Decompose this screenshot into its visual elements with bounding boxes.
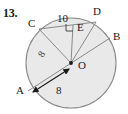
- point-label-A: A: [16, 84, 24, 96]
- point-label-C: C: [28, 17, 35, 29]
- circle-geometry-figure: A B C D E O 10 8 8: [0, 0, 128, 114]
- point-label-E: E: [77, 21, 84, 33]
- point-label-B: B: [113, 30, 120, 42]
- measure-label-radius-8: 8: [56, 84, 62, 96]
- figure-page: 13. A B C D E: [0, 0, 128, 114]
- center-dot-icon: [69, 61, 73, 65]
- point-label-D: D: [93, 5, 101, 17]
- point-label-O: O: [78, 59, 86, 71]
- measure-label-chord-10: 10: [57, 12, 69, 24]
